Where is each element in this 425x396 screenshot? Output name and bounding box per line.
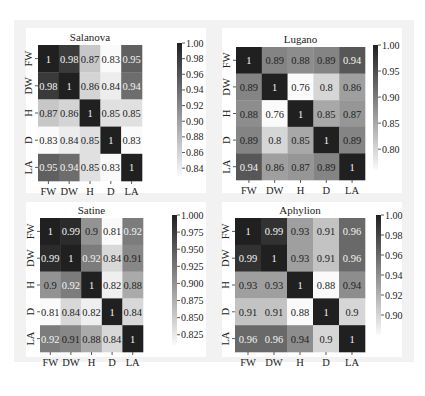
y-tick-label: FW — [221, 52, 232, 68]
cell-value-label: 0.94 — [122, 81, 141, 92]
cell-value-label: 1 — [108, 135, 113, 146]
cell-value-label: 0.83 — [122, 135, 140, 146]
cell-value-label: 0.98 — [60, 54, 78, 65]
colorbar-tick-label: 0.92 — [186, 100, 204, 111]
colorbar-tick-label: 0.85 — [382, 118, 400, 129]
cell-value-label: 0.91 — [317, 226, 335, 237]
panel-title: Salanova — [70, 31, 110, 43]
colorbar-tick-label: 1.00 — [186, 38, 204, 49]
cell-value-label: 0.84 — [102, 81, 121, 92]
cell-value-label: 1 — [89, 280, 94, 291]
cell-value-label: 0.9 — [345, 307, 358, 318]
x-tick-label: LA — [125, 186, 139, 197]
x-tick-label: H — [88, 357, 96, 368]
cell-value-label: 0.87 — [81, 54, 99, 65]
cell-value-label: 0.76 — [291, 82, 309, 93]
y-tick-label: DW — [25, 249, 36, 267]
cell-value-label: 0.91 — [265, 307, 283, 318]
cell-value-label: 0.89 — [343, 135, 361, 146]
colorbar-tick-label: 0.80 — [382, 144, 400, 155]
cell-value-label: 0.81 — [41, 307, 59, 318]
y-tick-label: FW — [23, 51, 34, 67]
colorbar-tick-label: 0.94 — [385, 270, 403, 281]
y-tick-label: H — [25, 281, 36, 289]
x-tick-label: D — [323, 185, 331, 196]
cell-value-label: 0.92 — [124, 226, 142, 237]
cell-value-label: 0.8 — [320, 82, 333, 93]
cell-value-label: 0.86 — [81, 81, 99, 92]
y-tick-label: DW — [220, 249, 231, 267]
cell-value-label: 0.9 — [44, 280, 57, 291]
cell-value-label: 1 — [349, 334, 354, 345]
cell-value-label: 0.87 — [39, 108, 57, 119]
cell-value-label: 0.85 — [122, 108, 140, 119]
colorbar-tick-label: 0.90 — [382, 92, 400, 103]
y-tick-label: D — [221, 136, 232, 144]
colorbar-tick-label: 0.900 — [181, 278, 204, 289]
y-tick-label: D — [23, 136, 34, 144]
cell-value-label: 0.94 — [291, 334, 310, 345]
cell-value-label: 0.87 — [343, 109, 361, 120]
cell-value-label: 1 — [246, 55, 251, 66]
panel-title: Satine — [78, 204, 106, 216]
cell-value-label: 1 — [68, 253, 73, 264]
cell-value-label: 0.84 — [60, 135, 79, 146]
cell-value-label: 1 — [323, 307, 328, 318]
cell-value-label: 0.99 — [62, 226, 80, 237]
colorbar — [172, 215, 177, 345]
cell-value-label: 0.96 — [343, 253, 361, 264]
x-tick-label: H — [296, 357, 304, 368]
y-tick-label: FW — [25, 223, 36, 239]
y-tick-label: DW — [221, 78, 232, 96]
cell-value-label: 0.84 — [62, 307, 81, 318]
cell-value-label: 0.8 — [268, 135, 281, 146]
heatmap-panel-aphylion: Aphylion10.990.930.910.960.9910.930.910.… — [220, 204, 403, 368]
cell-value-label: 0.91 — [62, 334, 80, 345]
cell-value-label: 0.89 — [317, 55, 335, 66]
cell-value-label: 0.89 — [266, 55, 284, 66]
y-tick-label: LA — [23, 160, 34, 174]
y-tick-label: D — [25, 308, 36, 316]
cell-value-label: 0.83 — [102, 54, 120, 65]
cell-value-label: 1 — [46, 54, 51, 65]
cell-value-label: 1 — [349, 162, 354, 173]
y-tick-label: H — [220, 281, 231, 289]
heatmap-panel-lugano: Lugano10.890.880.890.940.8910.760.80.860… — [221, 33, 400, 196]
cell-value-label: 0.84 — [103, 334, 122, 345]
x-tick-label: FW — [240, 357, 256, 368]
cell-value-label: 0.99 — [41, 253, 59, 264]
heatmap-panel-salanova: Salanova10.980.870.830.950.9810.860.840.… — [23, 31, 204, 197]
colorbar-tick-label: 0.90 — [385, 310, 403, 321]
cell-value-label: 0.85 — [81, 162, 99, 173]
cell-value-label: 0.93 — [239, 280, 257, 291]
cell-value-label: 1 — [245, 226, 250, 237]
colorbar-tick-label: 0.875 — [181, 295, 204, 306]
cell-value-label: 0.88 — [124, 280, 142, 291]
cell-value-label: 0.93 — [265, 280, 283, 291]
y-tick-label: H — [23, 109, 34, 117]
cell-value-label: 0.94 — [60, 162, 79, 173]
cell-value-label: 0.95 — [39, 162, 57, 173]
cell-value-label: 1 — [298, 109, 303, 120]
x-tick-label: D — [107, 186, 115, 197]
x-tick-label: D — [322, 357, 330, 368]
cell-value-label: 0.86 — [343, 82, 361, 93]
x-tick-label: DW — [62, 357, 80, 368]
x-tick-label: DW — [60, 186, 78, 197]
x-tick-label: LA — [126, 357, 140, 368]
cell-value-label: 0.95 — [122, 54, 140, 65]
cell-value-label: 0.91 — [317, 253, 335, 264]
cell-value-label: 0.94 — [343, 55, 362, 66]
cell-value-label: 0.94 — [343, 280, 362, 291]
colorbar-tick-label: 0.86 — [186, 147, 204, 158]
heatmap-figure: Salanova10.980.870.830.950.9810.860.840.… — [0, 0, 425, 396]
colorbar — [177, 43, 182, 176]
x-tick-label: FW — [42, 357, 58, 368]
cell-value-label: 0.88 — [82, 334, 100, 345]
x-tick-label: LA — [345, 357, 359, 368]
y-tick-label: H — [221, 109, 232, 117]
colorbar — [376, 215, 381, 335]
cell-value-label: 0.91 — [124, 253, 142, 264]
panel-title: Aphylion — [279, 204, 321, 216]
cell-value-label: 0.93 — [291, 226, 309, 237]
